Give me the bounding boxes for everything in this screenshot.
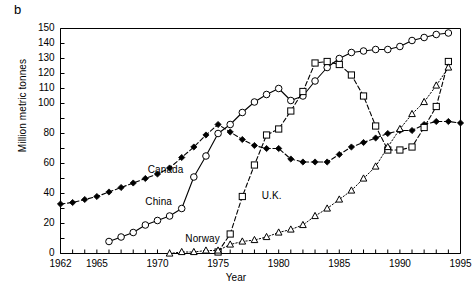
y-tick-label: 110 — [21, 82, 55, 93]
x-tick-label: 1985 — [317, 258, 361, 269]
series-label-u-k: U.K. — [262, 190, 282, 201]
y-tick-label: 60 — [21, 157, 55, 168]
y-tick-label: 40 — [21, 187, 55, 198]
y-tick-label: 100 — [21, 97, 55, 108]
y-tick-label: 0 — [21, 247, 55, 258]
series-u-k — [215, 58, 452, 255]
x-tick-label: 1990 — [378, 258, 422, 269]
series-label-norway: Norway — [185, 233, 220, 244]
y-tick-label: 150 — [21, 22, 55, 33]
series-label-canada: Canada — [148, 164, 184, 175]
series-label-china: China — [145, 196, 172, 207]
y-tick-label: 80 — [21, 127, 55, 138]
y-tick-label: 20 — [21, 217, 55, 228]
y-tick-label: 140 — [21, 37, 55, 48]
x-tick-label: 1965 — [75, 258, 119, 269]
x-tick-label: 1970 — [135, 258, 179, 269]
x-tick-label: 1975 — [196, 258, 240, 269]
x-tick-label: 1980 — [257, 258, 301, 269]
y-tick-label: 120 — [21, 67, 55, 78]
line-chart-plot — [0, 0, 472, 294]
series-china — [106, 30, 452, 245]
figure-panel: b Million metric tonnes Year 02040608010… — [0, 0, 472, 294]
series-norway — [166, 64, 451, 256]
x-tick-label: 1995 — [439, 258, 472, 269]
y-tick-label: 130 — [21, 52, 55, 63]
